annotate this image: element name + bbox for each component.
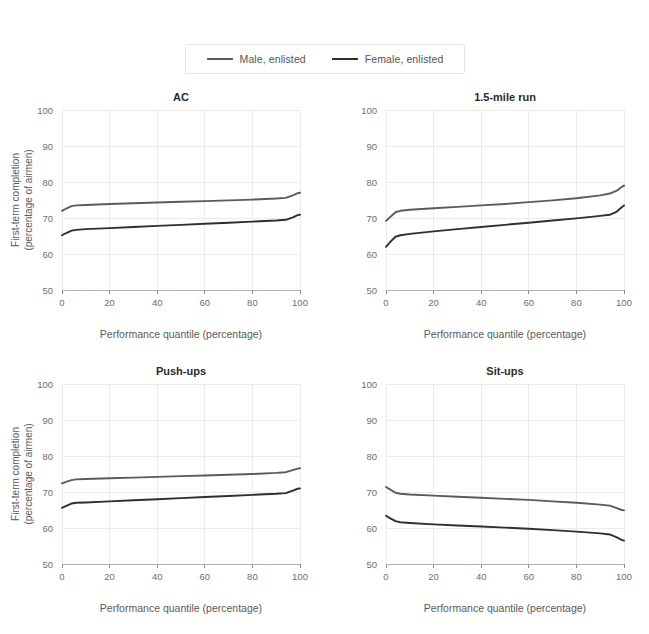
y-axis-title-line2: (percentage of airmen) <box>23 423 34 524</box>
y-axis-title-line2: (percentage of airmen) <box>23 149 34 250</box>
y-tick-label: 70 <box>366 487 377 498</box>
x-tick-label: 80 <box>571 297 582 308</box>
y-tick-label: 100 <box>37 379 53 390</box>
x-tick-label: 20 <box>104 297 115 308</box>
series-line-female-enlisted <box>386 205 624 246</box>
x-tick-label: 80 <box>571 571 582 582</box>
x-tick-label: 20 <box>104 571 115 582</box>
figure-root: Male, enlisted Female, enlisted AC506070… <box>0 0 649 634</box>
x-tick-label: 80 <box>247 297 258 308</box>
series-line-male-enlisted <box>62 193 300 211</box>
y-tick-label: 50 <box>366 285 377 296</box>
y-tick-label: 80 <box>42 451 53 462</box>
chart-panel-sit-ups: Sit-ups5060708090100020406080100Performa… <box>324 360 648 634</box>
y-axis-title: First-term completion(percentage of airm… <box>10 423 34 524</box>
panel-title: Push-ups <box>156 365 206 377</box>
chart-panel-ac: AC5060708090100020406080100Performance q… <box>0 86 324 360</box>
y-tick-label: 90 <box>366 141 377 152</box>
y-tick-label: 70 <box>42 487 53 498</box>
series-line-female-enlisted <box>62 488 300 507</box>
y-tick-label: 100 <box>361 379 377 390</box>
x-tick-label: 40 <box>152 297 163 308</box>
y-tick-label: 80 <box>42 177 53 188</box>
x-tick-label: 100 <box>616 571 632 582</box>
x-tick-label: 20 <box>428 297 439 308</box>
legend-swatch-female-enlisted <box>332 58 358 60</box>
x-tick-label: 100 <box>616 297 632 308</box>
x-tick-label: 60 <box>200 297 211 308</box>
y-tick-label: 70 <box>42 213 53 224</box>
x-tick-label: 20 <box>428 571 439 582</box>
legend-label-male-enlisted: Male, enlisted <box>240 53 306 65</box>
x-tick-label: 80 <box>247 571 258 582</box>
y-tick-label: 60 <box>366 523 377 534</box>
series-line-male-enlisted <box>386 186 624 221</box>
y-tick-label: 50 <box>366 559 377 570</box>
series-line-male-enlisted <box>386 487 624 510</box>
x-axis-title: Performance quantile (percentage) <box>100 328 262 340</box>
y-axis-title-line1: First-term completion <box>10 427 21 521</box>
y-tick-label: 80 <box>366 451 377 462</box>
chart-panel-1-5-mile-run: 1.5-mile run5060708090100020406080100Per… <box>324 86 648 360</box>
x-tick-label: 40 <box>476 297 487 308</box>
y-tick-label: 70 <box>366 213 377 224</box>
legend-label-female-enlisted: Female, enlisted <box>365 53 444 65</box>
chart-panel-push-ups: Push-ups5060708090100020406080100Perform… <box>0 360 324 634</box>
y-tick-label: 60 <box>366 249 377 260</box>
x-tick-label: 100 <box>292 571 308 582</box>
y-axis-title: First-term completion(percentage of airm… <box>10 149 34 250</box>
x-axis-title: Performance quantile (percentage) <box>424 328 586 340</box>
y-tick-label: 90 <box>42 415 53 426</box>
y-tick-label: 80 <box>366 177 377 188</box>
y-tick-label: 90 <box>42 141 53 152</box>
legend-item-female-enlisted[interactable]: Female, enlisted <box>332 53 444 65</box>
panel-grid: AC5060708090100020406080100Performance q… <box>0 86 649 634</box>
chart-legend: Male, enlisted Female, enlisted <box>185 44 465 74</box>
x-tick-label: 60 <box>200 571 211 582</box>
x-tick-label: 0 <box>383 297 388 308</box>
y-tick-label: 100 <box>37 105 53 116</box>
x-tick-label: 0 <box>59 297 64 308</box>
y-tick-label: 50 <box>42 285 53 296</box>
x-axis-title: Performance quantile (percentage) <box>100 602 262 614</box>
x-tick-label: 100 <box>292 297 308 308</box>
x-tick-label: 0 <box>59 571 64 582</box>
x-tick-label: 60 <box>524 571 535 582</box>
series-line-male-enlisted <box>62 468 300 483</box>
x-axis-title: Performance quantile (percentage) <box>424 602 586 614</box>
x-tick-label: 60 <box>524 297 535 308</box>
y-tick-label: 100 <box>361 105 377 116</box>
legend-swatch-male-enlisted <box>207 58 233 60</box>
x-tick-label: 40 <box>152 571 163 582</box>
y-tick-label: 50 <box>42 559 53 570</box>
y-tick-label: 60 <box>42 523 53 534</box>
panel-title: 1.5-mile run <box>474 91 536 103</box>
y-tick-label: 90 <box>366 415 377 426</box>
x-tick-label: 0 <box>383 571 388 582</box>
panel-title: AC <box>173 91 189 103</box>
legend-item-male-enlisted[interactable]: Male, enlisted <box>207 53 306 65</box>
y-tick-label: 60 <box>42 249 53 260</box>
y-axis-title-line1: First-term completion <box>10 153 21 247</box>
panel-title: Sit-ups <box>486 365 523 377</box>
x-tick-label: 40 <box>476 571 487 582</box>
